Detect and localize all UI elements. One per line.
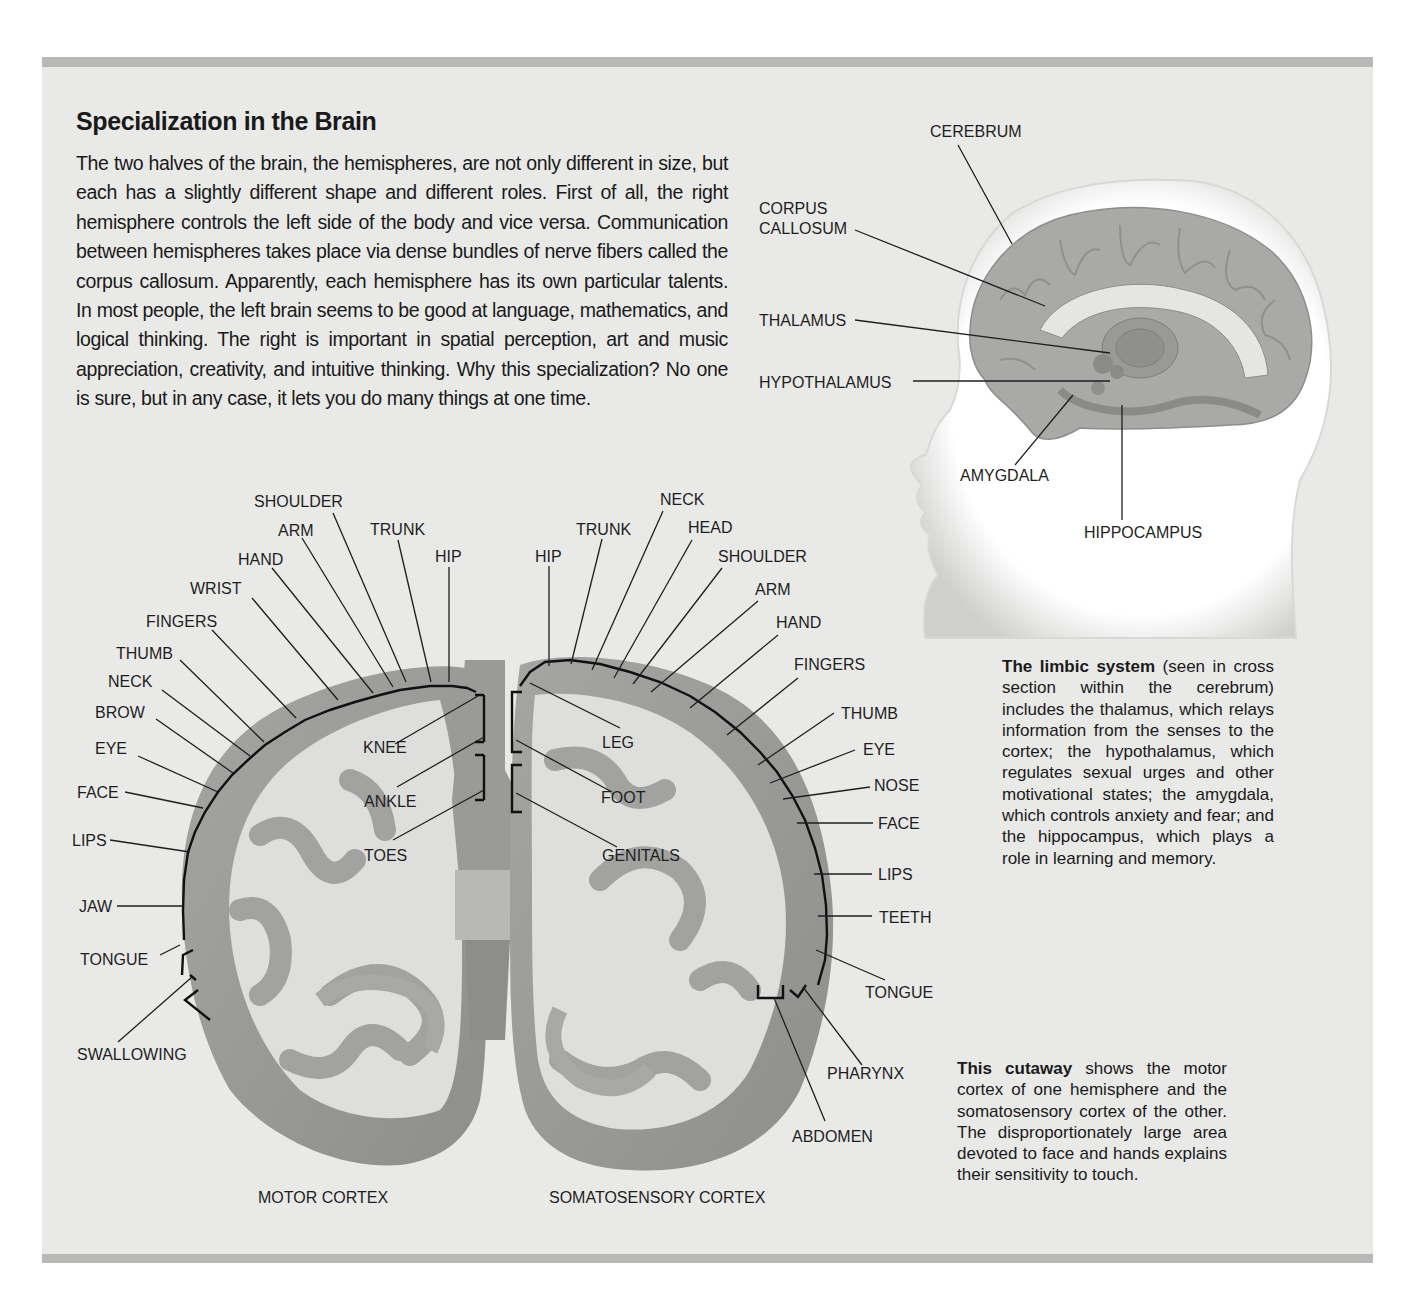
head-profile-illustration (911, 180, 1331, 638)
motor-label-fingers: FINGERS (146, 613, 217, 630)
sensory-label-arm: ARM (755, 581, 791, 598)
sensory-label-shoulder: SHOULDER (718, 548, 807, 565)
limbic-system-caption: The limbic system (seen in cross section… (1002, 656, 1274, 869)
motor-label-arm: ARM (278, 522, 314, 539)
motor-label-hand: HAND (238, 551, 283, 568)
motor-label-ankle: ANKLE (364, 793, 416, 810)
motor-label-eye: EYE (95, 740, 127, 757)
sensory-label-thumb: THUMB (841, 705, 898, 722)
motor-label-face: FACE (77, 784, 119, 801)
sensory-label-teeth: TEETH (879, 909, 931, 926)
sensory-label-abdomen: ABDOMEN (792, 1128, 873, 1145)
motor-label-knee: KNEE (363, 739, 407, 756)
sensory-label-neck: NECK (660, 491, 705, 508)
motor-label-toes: TOES (364, 847, 407, 864)
label-corpus: CORPUS (759, 200, 827, 217)
sensory-label-head: HEAD (688, 519, 732, 536)
label-amygdala: AMYGDALA (960, 467, 1049, 484)
motor-label-jaw: JAW (79, 898, 113, 915)
motor-label-shoulder: SHOULDER (254, 493, 343, 510)
motor-label-trunk: TRUNK (370, 521, 425, 538)
motor-label-swallowing: SWALLOWING (77, 1046, 187, 1063)
sensory-label-leg: LEG (602, 734, 634, 751)
cutaway-caption: This cutaway shows the motor cortex of o… (957, 1058, 1227, 1186)
label-hippocampus: HIPPOCAMPUS (1084, 524, 1202, 541)
motor-label-hip: HIP (435, 548, 462, 565)
motor-label-wrist: WRIST (190, 580, 242, 597)
motor-label-neck: NECK (108, 673, 153, 690)
sensory-label-genitals: GENITALS (602, 847, 680, 864)
sensory-label-hand: HAND (776, 614, 821, 631)
coronal-brain-section (182, 657, 833, 1171)
motor-cortex-title: MOTOR CORTEX (258, 1189, 388, 1206)
cutaway-caption-lead: This cutaway (957, 1059, 1072, 1078)
sensory-label-hip: HIP (535, 548, 562, 565)
limbic-caption-body: (seen in cross section within the cerebr… (1002, 657, 1274, 868)
somatosensory-cortex-title: SOMATOSENSORY CORTEX (549, 1189, 766, 1206)
sensory-label-lips: LIPS (878, 866, 913, 883)
label-thalamus: THALAMUS (759, 312, 846, 329)
sensory-label-nose: NOSE (874, 777, 919, 794)
sensory-label-pharynx: PHARYNX (827, 1065, 904, 1082)
sensory-label-foot: FOOT (601, 789, 646, 806)
motor-label-brow: BROW (95, 704, 146, 721)
motor-label-lips: LIPS (72, 832, 107, 849)
sensory-label-eye: EYE (863, 741, 895, 758)
label-hypothalamus: HYPOTHALAMUS (759, 374, 891, 391)
motor-label-tongue: TONGUE (80, 951, 148, 968)
label-callosum: CALLOSUM (759, 220, 847, 237)
sensory-label-tongue: TONGUE (865, 984, 933, 1001)
sensory-label-fingers: FINGERS (794, 656, 865, 673)
motor-label-thumb: THUMB (116, 645, 173, 662)
limbic-caption-lead: The limbic system (1002, 657, 1155, 676)
label-cerebrum: CEREBRUM (930, 123, 1022, 140)
sensory-label-face: FACE (878, 815, 920, 832)
sensory-label-trunk: TRUNK (576, 521, 631, 538)
